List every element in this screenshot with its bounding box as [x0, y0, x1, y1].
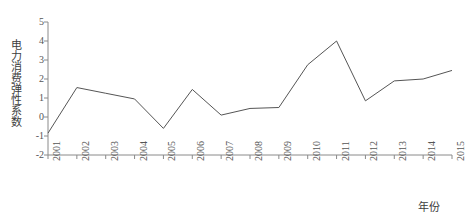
x-tick-label: 2015 [456, 141, 466, 161]
x-tick-label: 2009 [283, 141, 293, 161]
x-tick-label: 2014 [427, 141, 437, 161]
x-tick-label: 2005 [167, 141, 177, 161]
x-tick-label: 2013 [398, 141, 408, 161]
x-tick-label: 2010 [312, 141, 322, 161]
x-tick-label: 2012 [369, 141, 379, 161]
x-tick-label: 2004 [139, 141, 149, 161]
x-tick-label: 2002 [81, 141, 91, 161]
x-tick-label: 2007 [225, 141, 235, 161]
line-chart: 电力消费弹性系数 543210-1-2 20012002200320042005… [0, 0, 468, 218]
x-tick-label: 2003 [110, 141, 120, 161]
x-tick-label: 2011 [341, 141, 351, 161]
x-tick-label: 2001 [52, 141, 62, 161]
x-tick-label: 2008 [254, 141, 264, 161]
x-axis-tick-labels: 2001200220032004200520062007200820092010… [0, 0, 468, 218]
x-tick-label: 2006 [196, 141, 206, 161]
x-axis-title: 年份 [418, 198, 440, 214]
